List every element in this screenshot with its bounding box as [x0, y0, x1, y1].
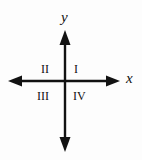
y-axis-positive-arrowhead	[60, 30, 71, 45]
axes-group	[0, 0, 142, 160]
quadrant-3-label: III	[37, 90, 49, 102]
quadrant-2-label: II	[41, 63, 49, 75]
quadrant-1-label: I	[74, 63, 78, 75]
x-axis-negative-arrowhead	[8, 76, 22, 87]
y-axis-negative-arrowhead	[60, 137, 71, 152]
x-axis-label: x	[126, 71, 133, 86]
x-axis-positive-arrowhead	[106, 76, 120, 87]
y-axis-label: y	[61, 10, 68, 25]
quadrant-4-label: IV	[73, 90, 86, 102]
coordinate-plane-figure: y x I II III IV	[0, 0, 142, 160]
